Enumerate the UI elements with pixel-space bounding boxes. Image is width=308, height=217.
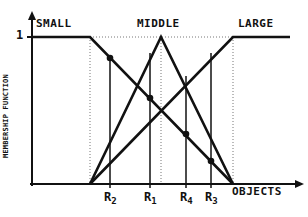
r2-label: R2	[104, 190, 117, 206]
x-axis-label: OBJECTS	[232, 185, 282, 198]
axes	[27, 18, 298, 186]
small-membership-line	[32, 37, 233, 184]
set-label-large: LARGE	[238, 17, 274, 30]
y-axis-arrow-icon	[28, 11, 36, 20]
y-axis-label: MEMBERSHIP FUNCTION	[2, 74, 10, 158]
y-tick-one-label: 1	[16, 28, 23, 42]
set-label-middle: MIDDLE	[137, 17, 180, 30]
large-membership-line	[90, 37, 290, 184]
r4-label: R4	[180, 190, 193, 206]
set-label-small: SMALL	[36, 17, 72, 30]
x-axis-arrow-icon	[295, 180, 304, 188]
r1-label: R1	[144, 190, 157, 206]
fuzzy-membership-diagram: 1 SMALL MIDDLE LARGE MEMBERSHIP FUNCTION…	[0, 0, 308, 217]
r3-label: R3	[205, 190, 218, 206]
